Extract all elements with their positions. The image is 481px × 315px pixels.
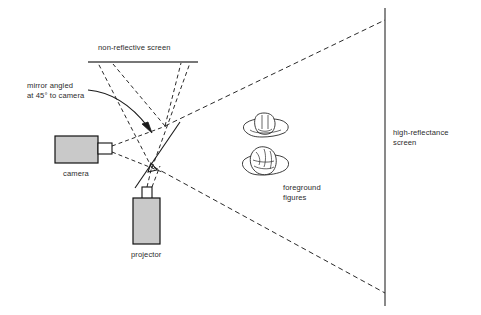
label-mirror-note-line1: mirror angled: [27, 81, 73, 90]
label-foreground-line1: foreground: [283, 183, 321, 192]
camera-device: [55, 136, 112, 163]
mirror-note-arrowhead: [142, 122, 152, 133]
label-camera: camera: [63, 169, 90, 178]
projector-body: [133, 198, 160, 244]
camera-body: [55, 136, 98, 163]
camera-lens: [98, 143, 112, 154]
mirror-line: [135, 122, 180, 188]
label-mirror-note-line2: at 45° to camera: [27, 91, 85, 100]
label-non-reflective-screen: non-reflective screen: [98, 43, 171, 52]
diagram-canvas: non-reflective screen mirror angled at 4…: [0, 0, 481, 315]
projector-lens: [142, 187, 152, 199]
label-projector: projector: [131, 250, 162, 259]
projection-ray-lower: [154, 167, 385, 293]
foreground-figure-upper: [243, 113, 288, 137]
camera-sight-line-lower: [112, 152, 162, 172]
label-foreground-line2: figures: [283, 193, 307, 202]
mirror-ray-to-screen-right: [152, 63, 190, 168]
foreground-figure-lower: [242, 147, 288, 175]
projector-device: [133, 187, 160, 244]
projection-setup-diagram: non-reflective screen mirror angled at 4…: [0, 0, 481, 315]
mirror-note-leader-line: [88, 90, 148, 127]
projection-ray-upper: [165, 20, 385, 126]
label-high-reflectance-line1: high-reflectance: [393, 128, 449, 137]
label-high-reflectance-line2: screen: [393, 138, 416, 147]
